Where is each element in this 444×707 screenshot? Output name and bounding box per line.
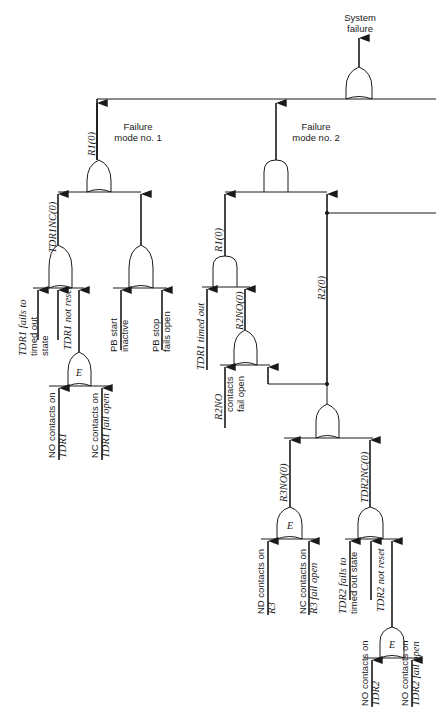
e-label-r3: E: [286, 520, 293, 531]
event-tdr2-fails-timed-out: TDR2 fails to timed out state: [337, 552, 359, 614]
fm1-or-gate: [87, 160, 111, 192]
event-line: ND contacts on: [255, 549, 266, 614]
top-event-label: System failure: [340, 12, 380, 34]
event-no-contacts-tdr1: NO contacts on TDR1: [46, 393, 68, 458]
top-event-line2: failure: [340, 23, 380, 34]
event-tdr1-fails-timed-out: TDR1 fails to timed out state: [17, 299, 50, 356]
event-line: NC contacts on: [297, 549, 308, 614]
event-line: R3: [266, 549, 277, 614]
signal-r1-fm1: R1(0): [86, 132, 97, 156]
fm2-line2: mode no. 2: [290, 132, 342, 143]
pb-or-gate: [129, 245, 153, 288]
r1-and-gate: [213, 256, 237, 287]
top-event-line1: System: [340, 12, 380, 23]
event-line: timed out state: [348, 552, 359, 614]
tdr2nc-or-gate: [358, 507, 383, 539]
event-line: PB stop: [150, 311, 161, 352]
signal-r3no: R3NO(0): [278, 464, 289, 503]
e-label-tdr2: E: [388, 639, 395, 650]
failure-mode-1-label: Failure mode no. 1: [112, 121, 164, 143]
event-line: fails open: [161, 311, 172, 352]
event-line: fail open: [235, 376, 246, 412]
signal-r2: R2(0): [316, 276, 327, 300]
signal-tdr2nc: TDR2NC(0): [359, 452, 370, 503]
event-tdr2-not-reset: TDR2 not reset: [375, 548, 386, 612]
event-pb-stop-fails-open: PB stop fails open: [150, 311, 172, 352]
failure-mode-2-label: Failure mode no. 2: [290, 121, 342, 143]
event-line: TDR1 fails to: [17, 299, 28, 356]
event-line: inactive: [119, 318, 130, 352]
event-line: TDR1: [57, 393, 68, 458]
event-line: TDR2 fail open: [410, 641, 421, 706]
r2no-or-gate: [234, 330, 257, 365]
fm2-line1: Failure: [290, 121, 342, 132]
fm1-line2: mode no. 1: [112, 132, 164, 143]
top-or-gate: [346, 67, 372, 99]
event-line: R2NO: [213, 376, 224, 420]
event-no-contacts-tdr2: NO contacts on TDR2: [359, 641, 381, 706]
event-line: contacts: [224, 376, 235, 412]
event-tdr1-not-reset: TDR1 not reset: [62, 286, 73, 350]
event-line: TDR2 fails to: [337, 552, 348, 614]
event-line: NO contacts on: [399, 641, 410, 706]
event-nc-contacts-r3: NC contacts on R3 fail open: [297, 549, 319, 614]
signal-tdr1nc: TDR1NC(0): [47, 202, 58, 253]
signal-r2no: R2NO(0): [234, 292, 245, 331]
event-line: TDR1 fail open: [100, 393, 111, 458]
event-line: R3 fail open: [308, 549, 319, 614]
event-tdr1-timed-out: TDR1 timed out: [195, 303, 206, 370]
event-r2no-contacts-fail-open: R2NO contacts fail open: [213, 376, 246, 420]
event-nc-contacts-tdr1: NC contacts on TDR1 fail open: [89, 393, 111, 458]
fm1-line1: Failure: [112, 121, 164, 132]
e-label-tdr1: E: [75, 367, 82, 378]
event-line: TDR2: [370, 641, 381, 706]
event-line: timed out: [28, 299, 39, 356]
event-line: NO contacts on: [46, 393, 57, 458]
r2-lower-or-gate: [316, 404, 339, 438]
event-line: PB start: [108, 318, 119, 352]
fm2-and-gate: [264, 160, 288, 192]
event-line: NO contacts on: [359, 641, 370, 706]
event-pb-start-inactive: PB start inactive: [108, 318, 130, 352]
event-line: state: [39, 299, 50, 356]
event-no-contacts-tdr2-fail-open: NO contacts on TDR2 fail open: [399, 641, 421, 706]
event-line: NC contacts on: [89, 393, 100, 458]
signal-r1-fm2: R1(0): [213, 228, 224, 252]
event-no-contacts-r3: ND contacts on R3: [255, 549, 277, 614]
